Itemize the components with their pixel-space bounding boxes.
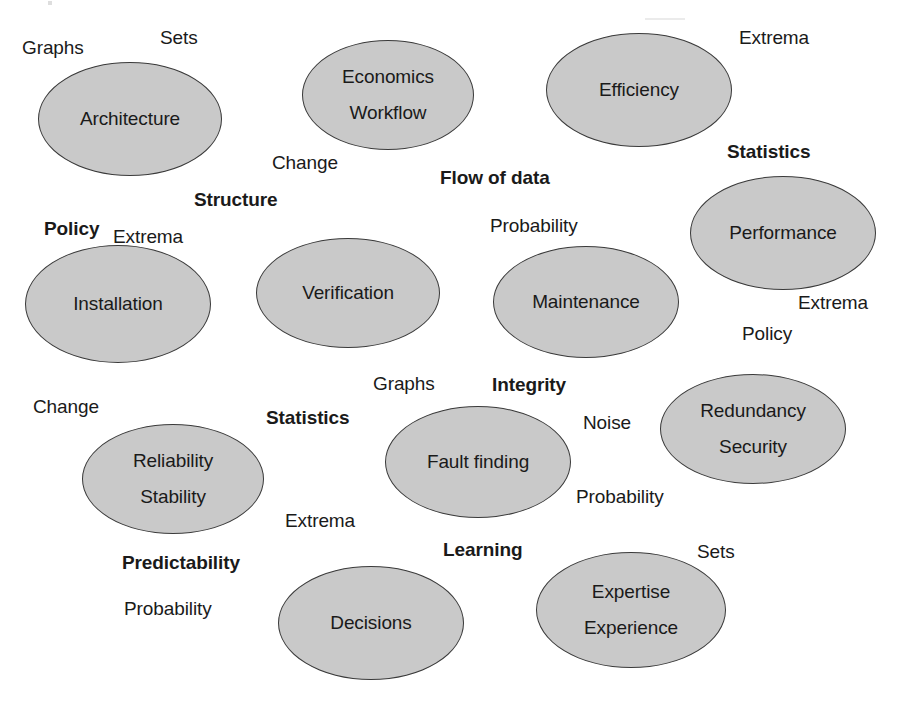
label-noise: Noise [583,413,631,432]
label-extrema-left: Extrema [113,227,183,246]
label-sets-top: Sets [160,28,198,47]
label-change-top: Change [272,153,338,172]
concept-map-diagram: Architecture Economics Workflow Efficien… [0,0,915,703]
node-label: Workflow [350,103,427,123]
label-probability-mid: Probability [490,216,578,235]
label-flow-of-data: Flow of data [440,168,550,187]
node-label: Decisions [330,613,411,633]
label-probability-bottom: Probability [124,599,212,618]
node-economics-workflow: Economics Workflow [302,40,474,150]
node-reliability-stability: Reliability Stability [82,424,264,534]
label-policy-right: Policy [742,324,792,343]
node-label: Efficiency [599,80,679,100]
node-label: Installation [73,294,163,314]
node-label: Economics [342,67,434,87]
node-label: Reliability [133,451,213,471]
label-sets-lower-right: Sets [697,542,735,561]
node-label: Performance [729,223,837,243]
label-graphs-top-left: Graphs [22,38,84,57]
node-label: Security [719,437,787,457]
label-probability-lower: Probability [576,487,664,506]
node-verification: Verification [256,238,440,348]
label-learning: Learning [443,540,522,559]
scan-artifact [48,1,52,5]
node-label: Verification [302,283,394,303]
node-performance: Performance [690,176,876,290]
label-integrity: Integrity [492,375,566,394]
node-label: Fault finding [427,452,529,472]
label-statistics-mid: Statistics [266,408,349,427]
label-change-left: Change [33,397,99,416]
node-label: Architecture [80,109,180,129]
scan-artifact [645,18,685,20]
label-policy-left: Policy [44,219,99,238]
node-installation: Installation [25,245,211,363]
label-extrema-right: Extrema [798,293,868,312]
node-label: Expertise [592,582,670,602]
node-label: Redundancy [700,401,806,421]
label-extrema-top-right: Extrema [739,28,809,47]
node-maintenance: Maintenance [493,246,679,358]
label-statistics-top-right: Statistics [727,142,810,161]
node-architecture: Architecture [38,62,222,176]
node-label: Experience [584,618,678,638]
node-expertise-experience: Expertise Experience [536,552,726,668]
node-redundancy-security: Redundancy Security [660,374,846,484]
node-fault-finding: Fault finding [385,406,571,518]
label-extrema-lower: Extrema [285,511,355,530]
label-graphs-mid: Graphs [373,374,435,393]
label-structure: Structure [194,190,278,209]
node-label: Maintenance [532,292,640,312]
label-predictability: Predictability [122,553,240,572]
node-efficiency: Efficiency [546,33,732,147]
node-label: Stability [140,487,206,507]
node-decisions: Decisions [278,566,464,680]
